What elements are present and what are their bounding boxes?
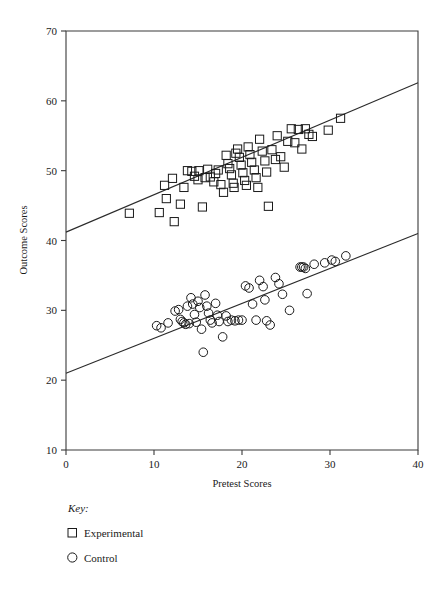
data-point-experimental bbox=[250, 166, 258, 174]
data-point-experimental bbox=[280, 163, 288, 171]
data-point-experimental bbox=[125, 209, 133, 217]
data-point-control bbox=[285, 306, 294, 315]
data-point-control bbox=[248, 300, 257, 309]
data-point-experimental bbox=[180, 183, 188, 191]
data-point-control bbox=[259, 282, 268, 291]
y-axis-title: Outcome Scores bbox=[18, 205, 29, 274]
y-tick-label: 70 bbox=[46, 25, 58, 37]
legend-marker-square bbox=[68, 529, 77, 538]
data-point-control bbox=[252, 316, 261, 325]
data-point-control bbox=[194, 297, 203, 306]
y-tick-label: 60 bbox=[46, 95, 58, 107]
data-point-experimental bbox=[206, 173, 214, 181]
data-point-control bbox=[183, 302, 192, 311]
data-point-experimental bbox=[277, 153, 285, 161]
data-point-control bbox=[255, 276, 264, 285]
regression-lines bbox=[66, 83, 418, 374]
x-tick-label: 30 bbox=[325, 458, 337, 470]
data-point-experimental bbox=[324, 126, 332, 134]
x-tick-label: 0 bbox=[63, 458, 69, 470]
data-point-experimental bbox=[248, 158, 256, 166]
data-point-experimental bbox=[242, 181, 250, 189]
data-point-control bbox=[164, 319, 173, 328]
data-point-experimental bbox=[256, 135, 264, 143]
data-point-experimental bbox=[212, 169, 220, 177]
data-point-control bbox=[218, 333, 227, 342]
x-tick-label: 20 bbox=[237, 458, 249, 470]
legend-title: Key: bbox=[67, 502, 89, 514]
axis-frame bbox=[66, 31, 418, 450]
data-point-experimental bbox=[244, 143, 252, 151]
data-point-control bbox=[199, 348, 208, 357]
data-point-experimental bbox=[273, 132, 281, 140]
data-point-experimental bbox=[198, 203, 206, 211]
data-point-control bbox=[211, 299, 220, 308]
data-point-experimental bbox=[227, 171, 235, 179]
data-point-experimental bbox=[252, 174, 260, 182]
data-point-experimental bbox=[155, 208, 163, 216]
axis-tick-labels: 10203040506070010203040 bbox=[46, 25, 424, 470]
x-axis-title: Pretest Scores bbox=[212, 478, 271, 489]
data-point-experimental bbox=[222, 151, 230, 159]
y-tick-label: 30 bbox=[46, 304, 58, 316]
data-point-control bbox=[201, 291, 210, 300]
y-tick-label: 50 bbox=[46, 165, 58, 177]
data-point-experimental bbox=[268, 146, 276, 154]
series-points-experimental bbox=[125, 114, 344, 226]
data-point-experimental bbox=[264, 202, 272, 210]
data-point-experimental bbox=[254, 183, 262, 191]
data-point-experimental bbox=[160, 181, 168, 189]
data-point-control bbox=[197, 325, 206, 334]
series-points-control bbox=[152, 252, 350, 357]
data-point-experimental bbox=[263, 168, 271, 176]
axis-ticks bbox=[61, 31, 418, 455]
data-point-experimental bbox=[176, 200, 184, 208]
regression-line-control bbox=[66, 234, 418, 374]
regression-line-experimental bbox=[66, 83, 418, 232]
data-point-experimental bbox=[241, 176, 249, 184]
x-tick-label: 40 bbox=[413, 458, 425, 470]
y-tick-label: 10 bbox=[46, 444, 58, 456]
data-point-experimental bbox=[237, 161, 245, 169]
data-point-experimental bbox=[239, 169, 247, 177]
data-point-control bbox=[261, 296, 270, 305]
data-point-experimental bbox=[261, 157, 269, 165]
data-point-control bbox=[213, 311, 222, 320]
y-tick-label: 20 bbox=[46, 374, 58, 386]
data-point-control bbox=[271, 273, 280, 282]
data-point-control bbox=[275, 279, 284, 288]
data-point-control bbox=[342, 252, 351, 261]
data-point-experimental bbox=[308, 132, 316, 140]
legend-label-control: Control bbox=[84, 552, 118, 564]
scatter-plot-figure: 10203040506070010203040 Outcome Scores P… bbox=[0, 0, 445, 590]
data-point-experimental bbox=[219, 188, 227, 196]
data-point-experimental bbox=[170, 218, 178, 226]
data-point-experimental bbox=[162, 195, 170, 203]
data-point-control bbox=[303, 289, 312, 298]
data-point-experimental bbox=[271, 155, 279, 163]
data-point-control bbox=[278, 290, 287, 299]
plot-canvas: 10203040506070010203040 Outcome Scores P… bbox=[0, 0, 445, 590]
legend-marker-circle bbox=[68, 553, 77, 562]
plot-frame bbox=[66, 31, 418, 450]
legend-label-experimental: Experimental bbox=[84, 527, 143, 539]
data-point-experimental bbox=[226, 164, 234, 172]
data-point-control bbox=[176, 315, 185, 324]
data-point-experimental bbox=[168, 174, 176, 182]
data-point-experimental bbox=[305, 130, 313, 138]
y-tick-label: 40 bbox=[46, 235, 58, 247]
data-point-control bbox=[310, 260, 319, 269]
x-tick-label: 10 bbox=[149, 458, 161, 470]
